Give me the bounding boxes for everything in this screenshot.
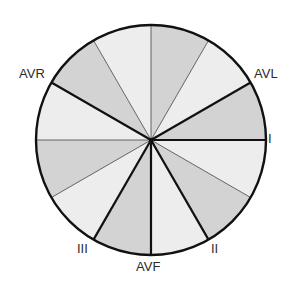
hexaxial-diagram — [0, 0, 290, 282]
lead-label-avl: AVL — [254, 67, 278, 80]
center-point — [149, 138, 153, 142]
lead-label-avr: AVR — [19, 67, 45, 80]
lead-label-avf: AVF — [136, 260, 160, 273]
lead-label-iii: III — [77, 242, 88, 255]
lead-label-ii: II — [211, 242, 218, 255]
lead-label-i: I — [268, 132, 272, 145]
